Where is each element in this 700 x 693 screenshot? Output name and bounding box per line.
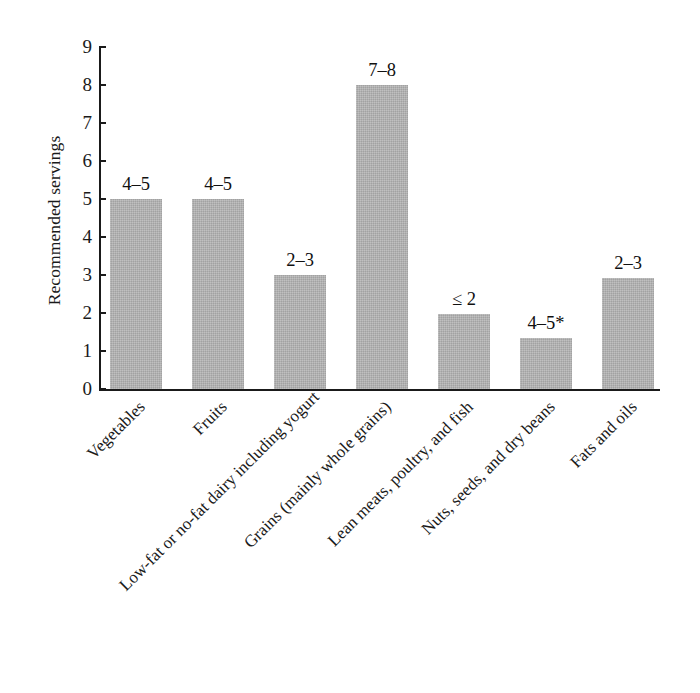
y-axis-tick-label: 5 <box>58 189 92 208</box>
y-axis-tick <box>99 160 106 162</box>
y-axis-tick <box>99 46 106 48</box>
bar <box>356 85 408 389</box>
y-axis-tick <box>99 350 106 352</box>
y-axis-tick-label: 6 <box>58 151 92 170</box>
y-axis-tick-label: 7 <box>58 113 92 132</box>
y-axis-tick-label: 4 <box>58 227 92 246</box>
y-axis-tick-label: 8 <box>58 75 92 94</box>
y-axis-tick-label: 0 <box>58 379 92 398</box>
y-axis-tick <box>99 122 106 124</box>
y-axis-tick <box>99 274 106 276</box>
y-axis-tick-label: 9 <box>58 37 92 56</box>
bar-value-label: 4–5 <box>178 175 258 194</box>
bar <box>110 199 162 389</box>
y-axis-tick-label: 3 <box>58 265 92 284</box>
x-axis-line <box>99 389 660 391</box>
bar <box>274 275 326 389</box>
bar-value-label: 2–3 <box>588 254 668 273</box>
y-axis-tick <box>99 388 106 390</box>
y-axis-tick-label: 1 <box>58 341 92 360</box>
y-axis-tick <box>99 198 106 200</box>
bar-value-label: 2–3 <box>260 251 340 270</box>
y-axis-tick <box>99 236 106 238</box>
y-axis-tick-label: 2 <box>58 303 92 322</box>
bar <box>602 278 654 389</box>
bar-chart: Recommended servings 0123456789 4–54–52–… <box>0 0 700 693</box>
y-axis-tick <box>99 312 106 314</box>
bar-value-label: 4–5* <box>506 314 586 333</box>
bar <box>438 314 490 389</box>
y-axis-line <box>99 46 101 390</box>
bar <box>520 338 572 389</box>
bar <box>192 199 244 389</box>
y-axis-tick <box>99 84 106 86</box>
bar-value-label: 7–8 <box>342 61 422 80</box>
bar-value-label: 4–5 <box>96 175 176 194</box>
bar-value-label: ≤ 2 <box>424 290 504 309</box>
